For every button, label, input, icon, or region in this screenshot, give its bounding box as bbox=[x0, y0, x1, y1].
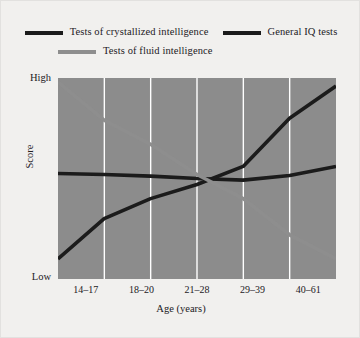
legend-row-2: Tests of fluid intelligence bbox=[1, 42, 360, 61]
legend-row-1: Tests of crystallized intelligence Gener… bbox=[1, 23, 360, 42]
x-axis-title: Age (years) bbox=[1, 303, 360, 314]
legend-swatch-general-iq-icon bbox=[223, 31, 261, 35]
legend-swatch-crystallized-icon bbox=[25, 31, 63, 35]
x-axis-ticks: 14–17 18–20 21–28 29–39 40–61 bbox=[58, 284, 336, 300]
x-axis-tick: 29–39 bbox=[225, 284, 281, 300]
chart-legend: Tests of crystallized intelligence Gener… bbox=[1, 23, 360, 63]
y-axis-title: Score bbox=[24, 127, 35, 187]
y-axis-tick-high: High bbox=[30, 72, 51, 83]
plot-area bbox=[58, 78, 336, 279]
legend-label-general-iq: General IQ tests bbox=[268, 27, 338, 38]
legend-entry-general-iq: General IQ tests bbox=[223, 27, 338, 38]
plot-svg bbox=[58, 78, 336, 279]
legend-entry-crystallized: Tests of crystallized intelligence bbox=[25, 27, 209, 38]
x-axis-tick: 40–61 bbox=[280, 284, 336, 300]
x-axis-tick: 18–20 bbox=[114, 284, 170, 300]
legend-swatch-fluid-icon bbox=[58, 50, 96, 54]
legend-label-crystallized: Tests of crystallized intelligence bbox=[70, 27, 209, 38]
y-axis-tick-low: Low bbox=[32, 271, 51, 282]
x-axis-tick: 14–17 bbox=[58, 284, 114, 300]
legend-label-fluid: Tests of fluid intelligence bbox=[103, 46, 213, 57]
legend-entry-fluid: Tests of fluid intelligence bbox=[58, 46, 213, 57]
chart-figure: Tests of crystallized intelligence Gener… bbox=[0, 0, 360, 338]
x-axis-tick: 21–28 bbox=[169, 284, 225, 300]
